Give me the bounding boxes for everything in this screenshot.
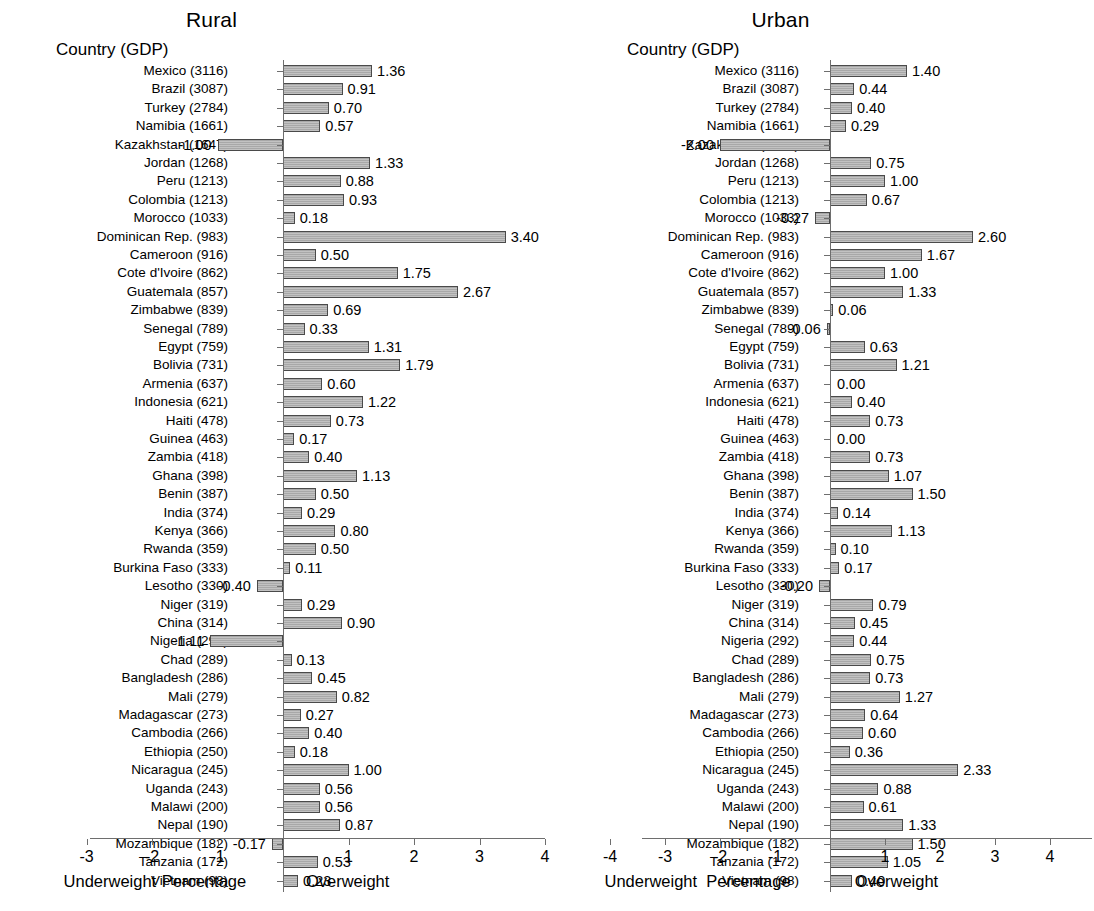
table-row: Namibia (1661)0.29 (547, 117, 1094, 135)
bar (830, 801, 864, 813)
bar (283, 323, 305, 335)
bar (283, 856, 318, 868)
country-label: Bangladesh (286) (0, 669, 228, 687)
bar (283, 562, 290, 574)
country-label: Brazil (3087) (0, 80, 228, 98)
table-row: Nigeria (292)0.44 (547, 632, 1094, 650)
country-label: Zimbabwe (839) (0, 301, 228, 319)
bar (283, 102, 329, 114)
bar-value-label: 1.33 (375, 154, 403, 172)
table-row: Bangladesh (286)0.73 (547, 669, 1094, 687)
bar (830, 231, 973, 243)
table-row: Guatemala (857)2.67 (0, 283, 547, 301)
bar (283, 819, 340, 831)
bar-value-label: 1.67 (927, 246, 955, 264)
bar (283, 691, 337, 703)
bar-value-label: 0.70 (334, 99, 362, 117)
table-row: Senegal (789)-0.06 (547, 320, 1094, 338)
bar (283, 286, 458, 298)
bar (830, 65, 907, 77)
bar-value-label: 0.87 (345, 816, 373, 834)
bar-value-label: 0.29 (307, 504, 335, 522)
x-tick-mark (885, 839, 886, 845)
x-tick-label: 3 (460, 848, 500, 866)
bar (283, 875, 298, 887)
bar (830, 691, 900, 703)
x-tick-mark (940, 839, 941, 845)
country-label: Dominican Rep. (983) (567, 228, 799, 246)
bar (830, 451, 870, 463)
table-row: Guatemala (857)1.33 (547, 283, 1094, 301)
table-row: Burkina Faso (333)0.17 (547, 559, 1094, 577)
country-label: Bolivia (731) (0, 356, 228, 374)
bar (830, 617, 855, 629)
bar-value-label: 0.90 (347, 614, 375, 632)
table-row: Indonesia (621)1.22 (0, 393, 547, 411)
bar (283, 672, 312, 684)
bar (830, 672, 870, 684)
table-row: China (314)0.90 (0, 614, 547, 632)
x-tick-label: -1 (755, 848, 795, 866)
bar (830, 359, 897, 371)
country-label: Cambodia (266) (0, 724, 228, 742)
country-label: Malawi (200) (0, 798, 228, 816)
x-tick-mark (349, 839, 350, 845)
plot-area-urban: Mexico (3116)1.40Brazil (3087)0.44Turkey… (547, 0, 1094, 911)
bar-value-label: 0.88 (883, 780, 911, 798)
country-label: Ghana (398) (0, 467, 228, 485)
axis-caption-underweight: Underweight (64, 872, 157, 891)
table-row: Colombia (1213)0.67 (547, 191, 1094, 209)
table-row: Mali (279)1.27 (547, 688, 1094, 706)
bar-value-label: 1.33 (908, 283, 936, 301)
bar-value-label: 0.73 (875, 448, 903, 466)
x-tick-label: 1 (329, 848, 369, 866)
country-label: China (314) (567, 614, 799, 632)
bar-value-label: -0.06 (788, 320, 821, 338)
country-label: Morocco (1033) (0, 209, 228, 227)
country-label: Uganda (243) (567, 780, 799, 798)
bar-value-label: 0.67 (872, 191, 900, 209)
table-row: Rwanda (359)0.50 (0, 540, 547, 558)
table-row: Morocco (1033)0.18 (0, 209, 547, 227)
table-row: Armenia (637)0.00 (547, 375, 1094, 393)
table-row: Mexico (3116)1.36 (0, 62, 547, 80)
bar (218, 139, 284, 151)
country-label: Namibia (1661) (0, 117, 228, 135)
bar-value-label: 0.33 (310, 320, 338, 338)
x-tick-label: 2 (920, 848, 960, 866)
table-row: Brazil (3087)0.44 (547, 80, 1094, 98)
bar (283, 488, 316, 500)
country-label: Nicaragua (245) (567, 761, 799, 779)
axis-caption-underweight: Underweight (605, 872, 698, 891)
bar (283, 341, 369, 353)
country-label: Senegal (789) (567, 320, 799, 338)
country-label: Uganda (243) (0, 780, 228, 798)
bar-value-label: 0.75 (876, 154, 904, 172)
table-row: Burkina Faso (333)0.11 (0, 559, 547, 577)
bar-value-label: 0.40 (857, 99, 885, 117)
table-row: Malawi (200)0.56 (0, 798, 547, 816)
bar-value-label: 0.82 (342, 688, 370, 706)
axis-caption-overweight: Overweight (306, 872, 389, 891)
x-tick-label: 4 (1030, 848, 1070, 866)
country-label: Benin (387) (0, 485, 228, 503)
country-label: Rwanda (359) (567, 540, 799, 558)
table-row: Ghana (398)1.13 (0, 467, 547, 485)
bar-value-label: 0.45 (860, 614, 888, 632)
country-label: Madagascar (273) (567, 706, 799, 724)
bar-value-label: 0.13 (297, 651, 325, 669)
bar (283, 304, 328, 316)
table-row: Kenya (366)1.13 (547, 522, 1094, 540)
bar-value-label: 0.27 (306, 706, 334, 724)
bar-value-label: 0.18 (300, 743, 328, 761)
table-row: Benin (387)0.50 (0, 485, 547, 503)
bar-value-label: 0.06 (838, 301, 866, 319)
bar-value-label: 0.45 (317, 669, 345, 687)
bar (830, 415, 870, 427)
bar-value-label: 0.00 (837, 375, 865, 393)
panel-rural: Rural Country (GDP) Mexico (3116)1.36Bra… (0, 0, 547, 911)
table-row: Dominican Rep. (983)2.60 (547, 228, 1094, 246)
table-row: Cambodia (266)0.60 (547, 724, 1094, 742)
country-label: Kenya (366) (567, 522, 799, 540)
country-label: Armenia (637) (567, 375, 799, 393)
